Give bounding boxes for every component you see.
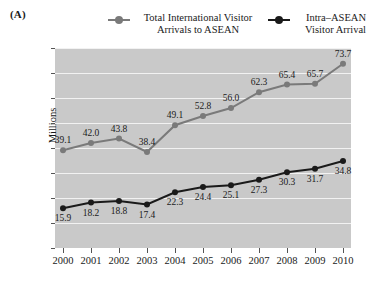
x-axis-tick-mark [287,248,288,253]
data-point-label: 31.7 [302,174,328,184]
legend-marker-total-international [108,14,130,26]
data-point-marker[interactable] [60,205,66,211]
data-point-marker[interactable] [312,166,318,172]
data-point-label: 27.3 [246,185,272,195]
data-point-marker[interactable] [284,169,290,175]
legend-item-total-international[interactable]: Total International Visitor Arrivals to … [108,12,264,35]
data-point-marker[interactable] [200,184,206,190]
x-axis-tick-mark [147,248,148,253]
legend-label-line2: Arrivals to ASEAN [132,24,264,36]
data-point-label: 62.3 [246,77,272,87]
data-point-marker[interactable] [88,140,94,146]
plot-area: Millions 01020304050607080 2000200120022… [55,48,351,248]
circle-marker-icon [115,16,123,24]
x-axis-tick-mark [231,248,232,253]
data-point-label: 38.4 [134,137,160,147]
data-point-marker[interactable] [340,158,346,164]
data-point-marker[interactable] [88,200,94,206]
data-point-marker[interactable] [228,182,234,188]
data-point-marker[interactable] [256,177,262,183]
data-point-label: 65.4 [274,70,300,80]
data-point-label: 65.7 [302,69,328,79]
chart-figure: (A) Total International Visitor Arrivals… [0,0,370,288]
data-point-label: 18.8 [106,206,132,216]
data-point-label: 49.1 [162,110,188,120]
legend-marker-intra-asean [268,14,290,26]
x-axis-tick-mark [259,248,260,253]
data-point-marker[interactable] [340,61,346,67]
data-point-label: 42.0 [78,128,104,138]
legend-label-intra-asean: Intra–ASEAN Visitor Arrival [290,12,366,35]
data-point-marker[interactable] [228,105,234,111]
data-point-label: 24.4 [190,192,216,202]
legend-label-line1: Intra–ASEAN [306,12,366,23]
data-point-label: 34.8 [330,166,356,176]
data-point-label: 52.8 [190,101,216,111]
x-axis-tick-mark [119,248,120,253]
circle-marker-icon [275,16,283,24]
x-axis-tick-mark [343,248,344,253]
data-point-marker[interactable] [116,198,122,204]
x-axis-tick-mark [315,248,316,253]
data-point-label: 25.1 [218,190,244,200]
data-point-label: 39.1 [50,135,76,145]
data-point-marker[interactable] [60,147,66,153]
data-point-marker[interactable] [172,189,178,195]
legend-item-intra-asean[interactable]: Intra–ASEAN Visitor Arrival [268,12,366,35]
x-axis-tick-label: 2010 [326,255,360,266]
data-point-marker[interactable] [116,136,122,142]
data-point-marker[interactable] [312,81,318,87]
x-axis-tick-mark [63,248,64,253]
data-point-label: 22.3 [162,197,188,207]
data-point-label: 43.8 [106,124,132,134]
data-point-label: 15.9 [50,213,76,223]
data-point-label: 30.3 [274,177,300,187]
chart-legend: Total International Visitor Arrivals to … [108,12,366,46]
data-point-label: 73.7 [330,49,356,59]
data-point-label: 56.0 [218,93,244,103]
legend-label-line2: Visitor Arrival [292,24,366,36]
data-point-marker[interactable] [284,82,290,88]
data-point-label: 18.2 [78,208,104,218]
y-axis-tick-mark [51,248,55,249]
data-point-marker[interactable] [144,149,150,155]
data-point-marker[interactable] [200,113,206,119]
data-point-marker[interactable] [144,202,150,208]
x-axis-tick-mark [175,248,176,253]
legend-label-total-international: Total International Visitor Arrivals to … [130,12,264,35]
legend-label-line1: Total International Visitor [144,12,253,23]
x-axis-tick-mark [91,248,92,253]
x-axis-tick-mark [203,248,204,253]
data-point-marker[interactable] [172,122,178,128]
panel-label: (A) [10,8,26,20]
data-point-marker[interactable] [256,89,262,95]
data-point-label: 17.4 [134,210,160,220]
